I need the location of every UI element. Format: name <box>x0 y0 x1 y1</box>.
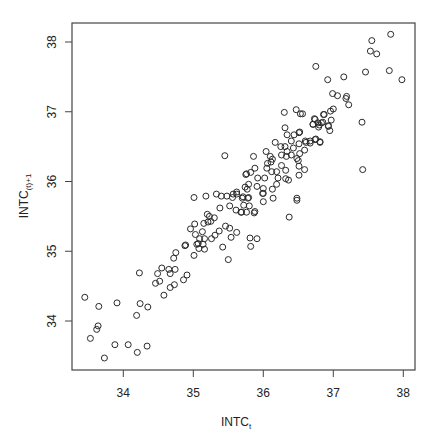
data-point <box>95 323 101 329</box>
data-point <box>369 38 375 44</box>
data-point <box>188 226 194 232</box>
data-point <box>270 195 276 201</box>
data-point <box>341 74 347 80</box>
data-point <box>290 145 296 151</box>
data-point <box>87 335 93 341</box>
data-point <box>203 193 209 199</box>
x-tick-label: 38 <box>397 386 411 400</box>
x-axis: 3435363738 <box>117 370 411 400</box>
data-point <box>283 167 289 173</box>
data-point <box>359 119 365 125</box>
data-point <box>254 183 260 189</box>
plot-frame <box>72 23 415 370</box>
data-point <box>172 266 178 272</box>
data-point <box>225 257 231 263</box>
data-point <box>134 349 140 355</box>
y-tick-label: 37 <box>45 105 59 119</box>
data-point <box>255 175 261 181</box>
data-point <box>286 214 292 220</box>
data-point <box>134 312 140 318</box>
data-point <box>399 77 405 83</box>
data-point <box>222 153 228 159</box>
data-point <box>159 265 165 271</box>
data-point <box>260 199 266 205</box>
x-tick-label: 36 <box>257 386 271 400</box>
data-point <box>212 232 218 238</box>
data-point <box>363 69 369 75</box>
data-point <box>191 195 197 201</box>
data-points <box>82 31 405 361</box>
data-point <box>246 203 252 209</box>
data-point <box>254 236 260 242</box>
data-point <box>248 243 254 249</box>
data-point <box>367 48 373 54</box>
data-point <box>386 68 392 74</box>
data-point <box>275 175 281 181</box>
data-point <box>282 125 288 131</box>
data-point <box>302 167 308 173</box>
data-point <box>101 355 107 361</box>
data-point <box>302 147 308 153</box>
data-point <box>82 294 88 300</box>
y-tick-label: 35 <box>45 244 59 258</box>
data-point <box>325 77 331 83</box>
data-point <box>272 139 278 145</box>
data-point <box>251 153 257 159</box>
data-point <box>155 271 161 277</box>
data-point <box>136 270 142 276</box>
data-point <box>328 117 334 123</box>
data-point <box>137 301 143 307</box>
data-point <box>209 236 215 242</box>
data-point <box>313 63 319 69</box>
data-point <box>228 234 234 240</box>
data-point <box>296 172 302 178</box>
x-tick-label: 37 <box>327 386 341 400</box>
data-point <box>241 202 247 208</box>
data-point <box>220 244 226 250</box>
x-tick-label: 34 <box>117 386 131 400</box>
data-point <box>374 51 380 57</box>
data-point <box>125 342 131 348</box>
data-point <box>145 304 151 310</box>
y-tick-label: 36 <box>45 175 59 189</box>
data-point <box>217 205 223 211</box>
data-point <box>388 31 394 37</box>
y-tick-label: 34 <box>45 314 59 328</box>
data-point <box>346 102 352 108</box>
data-point <box>360 167 366 173</box>
data-point <box>296 163 302 169</box>
data-point <box>281 109 287 115</box>
data-point <box>269 186 275 192</box>
data-point <box>199 229 205 235</box>
data-point <box>247 235 253 241</box>
data-point <box>262 175 268 181</box>
data-point <box>284 132 290 138</box>
data-point <box>173 250 179 256</box>
data-point <box>144 343 150 349</box>
data-point <box>112 342 118 348</box>
data-point <box>161 292 167 298</box>
y-axis: 3435363738 <box>45 35 72 328</box>
data-point <box>234 229 240 235</box>
x-axis-label: INTCt <box>221 415 252 431</box>
scatter-chart: 3435363738 3435363738 INTCt INTC(t)+1 <box>0 0 434 441</box>
y-tick-label: 38 <box>45 35 59 49</box>
x-tick-label: 35 <box>187 386 201 400</box>
data-point <box>184 272 190 278</box>
data-point <box>288 138 294 144</box>
y-axis-label: INTC(t)+1 <box>17 173 33 218</box>
data-point <box>191 252 197 258</box>
data-point <box>94 326 100 332</box>
data-point <box>227 203 233 209</box>
data-point <box>296 141 302 147</box>
data-point <box>96 303 102 309</box>
data-point <box>114 300 120 306</box>
